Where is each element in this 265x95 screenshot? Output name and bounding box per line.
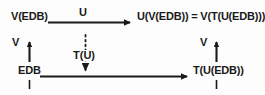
- commutative-diagram: U(V(EDB)) --> T(U(EDB)) --> V(EDB) --> U…: [0, 0, 265, 95]
- edge-label-middle-tu: T(U): [72, 50, 96, 61]
- diagram-edges: U(V(EDB)) --> T(U(EDB)) --> V(EDB) --> U…: [0, 0, 265, 95]
